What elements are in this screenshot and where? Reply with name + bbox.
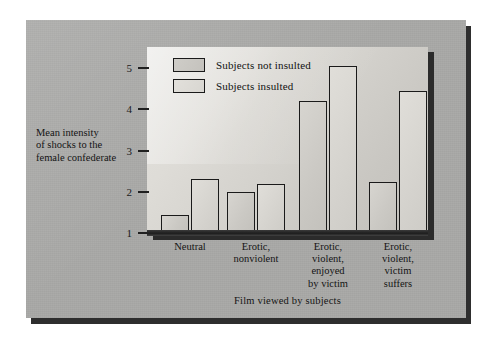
bar-group-3-series-1: [399, 91, 427, 233]
x-axis-category-label-2-line-3: by victim: [288, 278, 368, 290]
y-axis-tick-label-2: 2: [121, 186, 132, 198]
y-axis-tick-5: 5: [121, 62, 161, 74]
x-axis-category-label-1-line-1: nonviolent: [216, 253, 296, 265]
x-axis-category-label-3-line-0: Erotic,: [358, 241, 438, 253]
x-axis-category-label-2: Erotic,violent,enjoyedby victim: [288, 241, 368, 290]
legend-label-insulted: Subjects insulted: [216, 80, 293, 92]
x-axis-category-label-3-line-2: victim: [358, 265, 438, 277]
x-axis-category-label-1-line-0: Erotic,: [216, 241, 296, 253]
legend-label-not-insulted: Subjects not insulted: [216, 59, 311, 71]
y-axis-tick-label-5: 5: [121, 62, 132, 74]
bar-group-1-series-0: [227, 192, 255, 233]
y-axis-tick-label-3: 3: [121, 145, 132, 157]
bar-group-1-series-1: [257, 184, 285, 233]
x-axis-category-label-2-line-1: violent,: [288, 253, 368, 265]
x-axis-category-label-3-line-1: violent,: [358, 253, 438, 265]
bar-group-0-series-1: [191, 179, 219, 233]
x-axis-category-label-3: Erotic,violent,victimsuffers: [358, 241, 438, 290]
x-axis-baseline: [147, 230, 428, 236]
y-axis-title-line-1: Mean intensity: [36, 127, 142, 139]
y-axis-tick-label-1: 1: [121, 227, 132, 239]
y-axis-tick-label-4: 4: [121, 103, 132, 115]
y-axis-tick-mark-2: [138, 191, 149, 193]
legend-item-subjects-not-insulted: Subjects not insulted: [173, 58, 311, 72]
y-axis-tick-4: 4: [121, 103, 161, 115]
x-axis-category-label-1: Erotic,nonviolent: [216, 241, 296, 265]
x-axis-title: Film viewed by subjects: [147, 295, 428, 306]
bar-group-3-series-0: [369, 182, 397, 234]
y-axis-tick-mark-5: [138, 67, 149, 69]
y-axis-tick-3: 3: [121, 145, 161, 157]
x-axis-category-label-2-line-2: enjoyed: [288, 265, 368, 277]
bar-group-2-series-0: [299, 101, 327, 233]
bar-group-2-series-1: [329, 66, 357, 233]
y-axis-tick-mark-4: [138, 108, 149, 110]
x-axis-category-label-2-line-0: Erotic,: [288, 241, 368, 253]
legend-swatch-insulted: [173, 79, 205, 93]
legend-item-subjects-insulted: Subjects insulted: [173, 79, 311, 93]
figure-card: Mean intensity of shocks to the female c…: [26, 20, 466, 318]
legend-swatch-not-insulted: [173, 58, 205, 72]
plot-panel: 12345 Subjects not insulted Subjects ins…: [147, 47, 428, 235]
chart-legend: Subjects not insulted Subjects insulted: [173, 58, 311, 100]
y-axis-tick-mark-3: [138, 150, 149, 152]
x-axis-category-label-3-line-3: suffers: [358, 278, 438, 290]
y-axis-tick-2: 2: [121, 186, 161, 198]
